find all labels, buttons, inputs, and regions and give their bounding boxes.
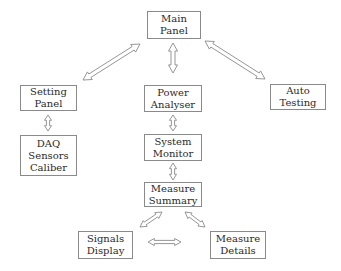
double-arrow-icon-summary-details — [185, 212, 205, 227]
node-label-line: Power — [157, 87, 189, 99]
double-arrow-icon-main-power — [169, 43, 178, 73]
node-label-line: Testing — [279, 97, 316, 109]
node-power-analyser: PowerAnalyser — [144, 85, 202, 112]
node-label-line: Main — [161, 13, 187, 25]
node-label-line: Details — [220, 245, 255, 257]
node-label-line: Panel — [160, 25, 188, 37]
node-label-line: Measure — [151, 183, 195, 195]
node-label-line: Measure — [216, 233, 260, 245]
node-label-line: Display — [87, 245, 125, 257]
double-arrow-icon-system-summary — [170, 163, 177, 180]
node-label-line: DAQ — [37, 138, 60, 150]
node-main-panel: MainPanel — [147, 11, 201, 39]
double-arrow-icon-summary-signals — [140, 212, 162, 227]
node-label-line: System — [154, 136, 191, 148]
node-daq-sensors-caliber: DAQSensorsCaliber — [20, 135, 77, 176]
node-setting-panel: SettingPanel — [20, 85, 77, 111]
node-label-line: Sensors — [28, 150, 68, 162]
double-arrow-icon-setting-daq — [45, 115, 52, 131]
node-label-line: Analyser — [151, 99, 195, 111]
node-label-line: Caliber — [30, 162, 67, 174]
node-label-line: Summary — [149, 195, 198, 207]
node-label-line: Panel — [35, 98, 63, 110]
double-arrow-icon-main-auto — [205, 41, 265, 79]
node-label-line: Signals — [87, 233, 124, 245]
node-label-line: Auto — [286, 85, 310, 97]
node-label-line: Setting — [30, 86, 67, 98]
node-label-line: Monitor — [153, 148, 194, 160]
double-arrow-icon-signals-details — [148, 239, 181, 246]
double-arrow-icon-main-setting — [83, 44, 140, 80]
node-measure-details: MeasureDetails — [210, 231, 266, 259]
double-arrow-icon-power-system — [170, 115, 177, 131]
node-system-monitor: SystemMonitor — [144, 134, 202, 161]
node-signals-display: SignalsDisplay — [78, 231, 133, 259]
node-auto-testing: AutoTesting — [270, 84, 326, 110]
node-measure-summary: MeasureSummary — [144, 182, 202, 207]
